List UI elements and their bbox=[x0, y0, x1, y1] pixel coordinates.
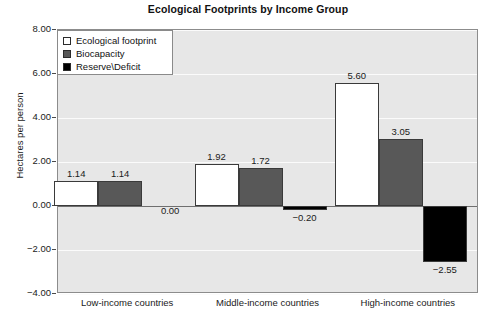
y-tick-mark bbox=[52, 249, 56, 250]
y-tick-label: −4.00 bbox=[3, 287, 51, 298]
y-tick-mark bbox=[52, 73, 56, 74]
chart-legend: Ecological footprintBiocapacityReserve\D… bbox=[57, 30, 173, 75]
category-label: Middle-income countries bbox=[197, 297, 337, 308]
gridline bbox=[58, 250, 477, 251]
category-label: Low-income countries bbox=[57, 297, 197, 308]
legend-swatch-icon bbox=[63, 37, 71, 45]
legend-label: Biocapacity bbox=[76, 48, 125, 60]
data-label: 1.92 bbox=[195, 151, 239, 162]
legend-swatch-icon bbox=[63, 63, 71, 71]
chart-container: Ecological Footprints by Income Group He… bbox=[0, 0, 496, 319]
legend-item[interactable]: Reserve\Deficit bbox=[63, 60, 168, 73]
bar bbox=[195, 164, 239, 206]
y-tick-label: 8.00 bbox=[3, 23, 51, 34]
data-label: 1.14 bbox=[98, 168, 142, 179]
bar bbox=[239, 168, 283, 206]
legend-item[interactable]: Biocapacity bbox=[63, 47, 168, 60]
bar bbox=[423, 206, 467, 262]
legend-label: Ecological footprint bbox=[76, 35, 156, 47]
y-tick-label: −2.00 bbox=[3, 243, 51, 254]
zero-line bbox=[58, 206, 477, 207]
y-tick-mark bbox=[52, 293, 56, 294]
gridline bbox=[58, 294, 477, 295]
bar bbox=[335, 83, 379, 206]
y-tick-label: 2.00 bbox=[3, 155, 51, 166]
legend-label: Reserve\Deficit bbox=[76, 61, 140, 73]
chart-title: Ecological Footprints by Income Group bbox=[0, 3, 496, 15]
data-label: −0.20 bbox=[283, 212, 327, 223]
category-label: High-income countries bbox=[338, 297, 478, 308]
data-label: 0.00 bbox=[148, 205, 192, 216]
gridline bbox=[58, 118, 477, 119]
data-label: −2.55 bbox=[423, 264, 467, 275]
data-label: 1.72 bbox=[239, 155, 283, 166]
x-axis-category-labels: Low-income countriesMiddle-income countr… bbox=[57, 297, 478, 313]
bar bbox=[98, 181, 142, 206]
y-axis-title: Hectares per person bbox=[14, 76, 25, 196]
data-label: 3.05 bbox=[379, 126, 423, 137]
bar bbox=[283, 206, 327, 210]
y-tick-label: 4.00 bbox=[3, 111, 51, 122]
bar bbox=[54, 181, 98, 206]
y-tick-mark bbox=[52, 117, 56, 118]
y-tick-mark bbox=[52, 161, 56, 162]
legend-item[interactable]: Ecological footprint bbox=[63, 34, 168, 47]
data-label: 5.60 bbox=[335, 70, 379, 81]
y-tick-label: 0.00 bbox=[3, 199, 51, 210]
y-tick-label: 6.00 bbox=[3, 67, 51, 78]
y-tick-mark bbox=[52, 29, 56, 30]
bar bbox=[379, 139, 423, 206]
legend-swatch-icon bbox=[63, 50, 71, 58]
data-label: 1.14 bbox=[54, 168, 98, 179]
